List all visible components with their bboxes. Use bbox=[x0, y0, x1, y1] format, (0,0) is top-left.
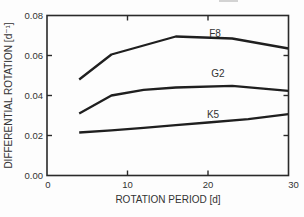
series-line-k5 bbox=[79, 114, 288, 132]
y-tick-label: 0.02 bbox=[25, 130, 44, 141]
y-tick-label: 0.08 bbox=[25, 10, 44, 21]
y-tick-label: 0.06 bbox=[25, 50, 44, 61]
figure: 01020300.000.020.040.060.08F8G2K5 ROTATI… bbox=[0, 0, 304, 217]
y-axis-title: DIFFERENTIAL ROTATION [d⁻¹] bbox=[3, 22, 14, 168]
curve-label-f8: F8 bbox=[209, 28, 221, 39]
series-line-f8 bbox=[79, 37, 288, 80]
differential-rotation-line-chart: 01020300.000.020.040.060.08F8G2K5 ROTATI… bbox=[0, 0, 304, 217]
x-tick-label: 20 bbox=[203, 179, 214, 190]
curve-label-g2: G2 bbox=[211, 68, 225, 79]
x-tick-label: 10 bbox=[122, 179, 133, 190]
series-line-g2 bbox=[79, 86, 288, 114]
x-tick-label: 30 bbox=[288, 179, 299, 190]
curve-label-k5: K5 bbox=[207, 109, 220, 120]
x-axis-title: ROTATION PERIOD [d] bbox=[115, 194, 220, 205]
plot-area: 01020300.000.020.040.060.08F8G2K5 bbox=[25, 10, 299, 190]
y-tick-label: 0.04 bbox=[25, 90, 44, 101]
y-tick-label: 0.00 bbox=[25, 170, 44, 181]
x-tick-label: 0 bbox=[45, 179, 50, 190]
